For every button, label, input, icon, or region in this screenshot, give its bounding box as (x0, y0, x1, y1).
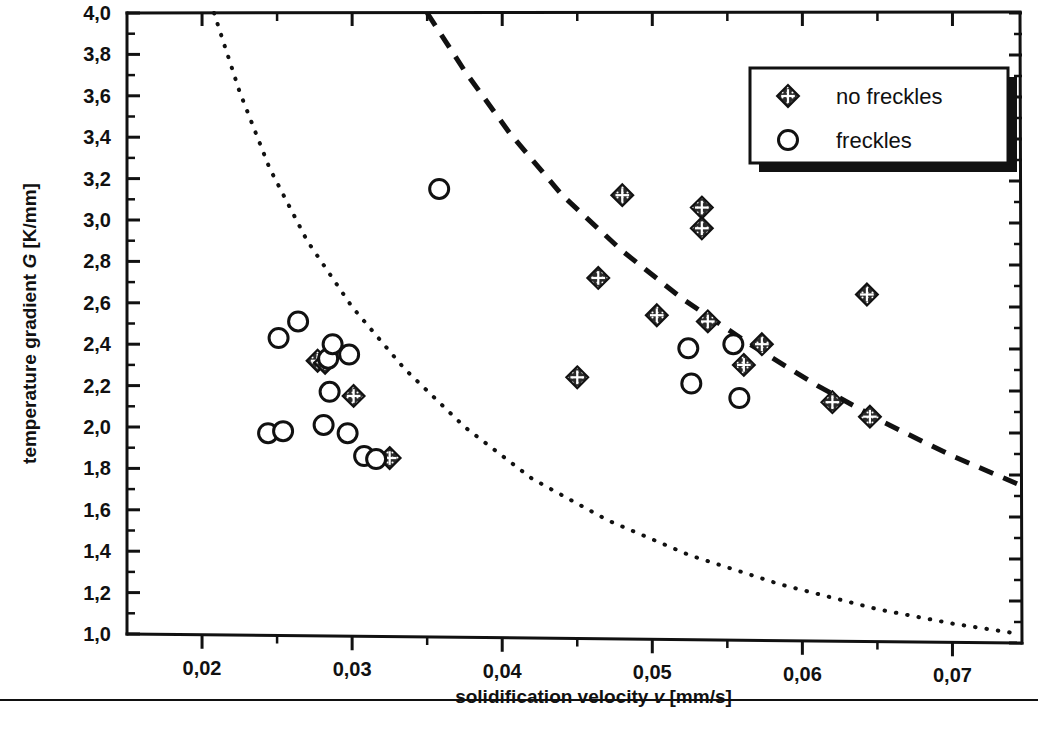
point-no-freckles (691, 217, 713, 239)
point-freckles (320, 382, 339, 401)
y-tick-label: 2,4 (83, 333, 112, 355)
x-tick-label: 0,03 (333, 658, 372, 680)
y-axis-title-main: temperature gradient (19, 269, 40, 464)
y-axis-title-unit: [K/mm] (19, 183, 40, 254)
point-freckles (269, 328, 288, 347)
x-axis-title: solidification velocity v [mm/s] (455, 686, 732, 707)
data-points (259, 179, 881, 469)
x-tick-label: 0,02 (183, 657, 222, 679)
point-freckles (724, 335, 743, 354)
point-no-freckles (611, 184, 633, 206)
point-no-freckles (751, 333, 773, 355)
y-tick-label: 1,2 (83, 582, 111, 604)
point-freckles (730, 389, 749, 408)
x-tick-label: 0,06 (783, 663, 822, 685)
x-tick-label: 0,04 (483, 660, 523, 682)
legend-label: no freckles (836, 84, 942, 109)
scatter-plot: 1,01,21,41,61,82,02,22,42,62,83,03,23,43… (0, 0, 1038, 738)
chart-figure: 1,01,21,41,61,82,02,22,42,62,83,03,23,43… (0, 0, 1038, 738)
y-tick-label: 4,0 (83, 2, 111, 24)
point-freckles (340, 345, 359, 364)
point-no-freckles (566, 366, 588, 388)
point-freckles (274, 422, 293, 441)
x-axis-title-unit: [mm/s] (664, 686, 732, 707)
point-freckles (314, 415, 333, 434)
point-no-freckles (859, 406, 881, 428)
point-no-freckles (691, 197, 713, 219)
y-tick-label: 3,2 (83, 168, 111, 190)
x-tick-label: 0,07 (933, 664, 972, 686)
y-tick-label: 1,8 (83, 457, 111, 479)
point-no-freckles (697, 310, 719, 332)
y-axis-title-symbol: G (19, 254, 40, 269)
y-axis-title: temperature gradient G [K/mm] (19, 183, 40, 464)
point-freckles (430, 179, 449, 198)
point-freckles (682, 374, 701, 393)
point-no-freckles (587, 267, 609, 289)
series-freckles (259, 179, 749, 468)
y-tick-label: 3,6 (83, 85, 111, 107)
x-axis-title-main: solidification velocity (455, 686, 654, 707)
point-freckles (338, 424, 357, 443)
point-no-freckles (343, 385, 365, 407)
y-tick-label: 2,6 (83, 292, 111, 314)
point-no-freckles (821, 391, 843, 413)
top-axis-line (127, 12, 1020, 13)
y-tick-label: 1,0 (83, 623, 111, 645)
y-tick-label: 2,2 (83, 375, 111, 397)
point-freckles (679, 339, 698, 358)
y-tick-label: 3,8 (83, 43, 111, 65)
y-tick-label: 3,4 (83, 126, 112, 148)
y-tick-label: 2,0 (83, 416, 111, 438)
legend-label: freckles (836, 128, 912, 153)
point-no-freckles (856, 284, 878, 306)
y-tick-label: 2,8 (83, 250, 111, 272)
point-freckles (367, 450, 386, 469)
point-freckles (289, 312, 308, 331)
legend-marker-open-circle (779, 131, 798, 150)
y-tick-label: 3,0 (83, 209, 111, 231)
point-no-freckles (733, 354, 755, 376)
y-tick-label: 1,6 (83, 499, 111, 521)
y-tick-label: 1,4 (83, 540, 112, 562)
chart-legend[interactable]: no frecklesfreckles (750, 68, 1017, 172)
x-axis-line (127, 634, 1022, 643)
x-tick-label: 0,05 (633, 661, 672, 683)
point-no-freckles (646, 304, 668, 326)
